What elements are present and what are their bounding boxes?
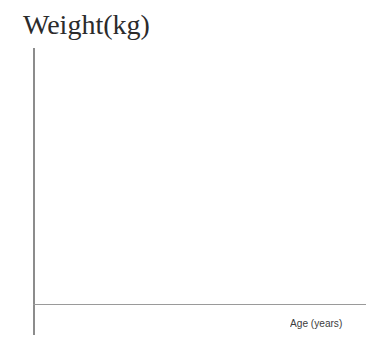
chart-canvas: Weight(kg) Age (years): [0, 0, 381, 362]
chart-title: Weight(kg): [23, 8, 150, 42]
y-axis-line: [33, 48, 35, 335]
plot-area: [35, 48, 366, 304]
x-axis-line: [33, 304, 366, 305]
x-axis-label: Age (years): [290, 317, 342, 330]
